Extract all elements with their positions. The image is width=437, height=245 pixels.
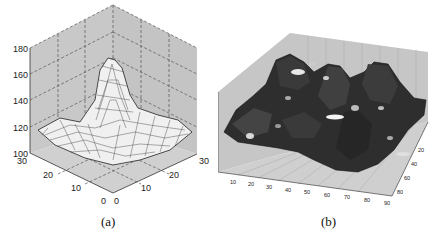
svg-text:20: 20 [43, 170, 53, 180]
svg-text:10: 10 [230, 179, 236, 185]
svg-text:120: 120 [13, 123, 28, 133]
svg-text:0: 0 [114, 196, 119, 206]
svg-text:30: 30 [266, 184, 272, 190]
svg-text:30: 30 [199, 156, 209, 166]
svg-text:20: 20 [418, 147, 424, 153]
svg-text:50: 50 [304, 189, 310, 195]
chart-a-svg: 180 160 140 120 100 30 20 10 0 0 10 20 3… [0, 0, 220, 245]
svg-text:180: 180 [13, 44, 28, 54]
svg-text:80: 80 [397, 189, 403, 195]
svg-text:40: 40 [411, 161, 417, 167]
svg-text:60: 60 [324, 192, 330, 198]
svg-text:10: 10 [71, 183, 81, 193]
caption-a: (a) [101, 214, 115, 230]
svg-text:140: 140 [13, 96, 28, 106]
z-axis-ticks: 180 160 140 120 100 [13, 44, 28, 159]
panel-b-surface-plot: 180 160 140 120 100 10 20 30 40 50 60 70… [218, 0, 437, 245]
svg-text:80: 80 [364, 197, 370, 203]
svg-text:0: 0 [101, 196, 106, 206]
svg-text:90: 90 [384, 200, 390, 206]
svg-text:30: 30 [17, 156, 27, 166]
panel-a-surface-plot: 180 160 140 120 100 30 20 10 0 0 10 20 3… [0, 0, 220, 245]
svg-text:20: 20 [169, 170, 179, 180]
svg-text:10: 10 [141, 183, 151, 193]
svg-text:160: 160 [13, 70, 28, 80]
svg-text:60: 60 [404, 175, 410, 181]
chart-b-svg: 180 160 140 120 100 10 20 30 40 50 60 70… [218, 0, 437, 245]
svg-text:70: 70 [344, 194, 350, 200]
caption-b: (b) [321, 214, 336, 230]
svg-text:40: 40 [285, 187, 291, 193]
svg-text:20: 20 [248, 181, 254, 187]
